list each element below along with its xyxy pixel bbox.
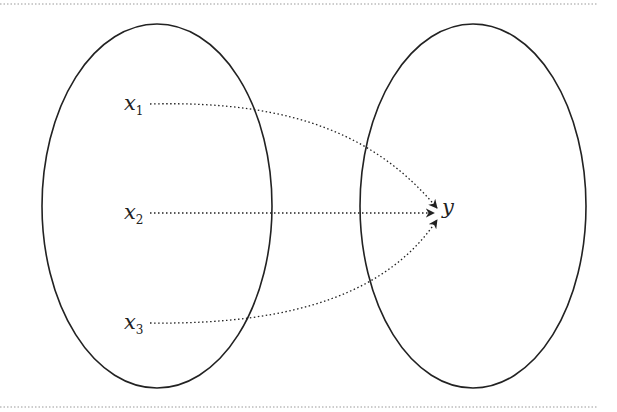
codomain-set-ellipse	[360, 24, 586, 388]
edge-x1-to-y	[150, 104, 437, 208]
node-x3-label: x3	[124, 310, 143, 337]
node-x2-label: x2	[124, 200, 143, 227]
node-x1-label: x1	[124, 91, 143, 118]
node-y-label: y	[441, 195, 455, 219]
edge-x3-to-y	[150, 220, 437, 323]
mapping-diagram: x1 x2 x3 y	[0, 0, 617, 412]
domain-set-ellipse	[42, 24, 272, 388]
